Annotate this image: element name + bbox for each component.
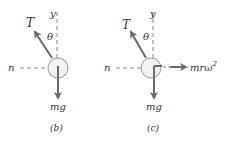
weight-label: mg (50, 101, 66, 112)
angle-label: θ (47, 31, 53, 42)
particle-circle (141, 58, 161, 78)
panel-c: T θ y n mrω2 mg (c) (104, 8, 217, 133)
panel-b: T θ y n mg (b) (8, 8, 68, 133)
n-label: n (104, 62, 110, 73)
tension-label: T (26, 16, 35, 30)
weight-label: mg (146, 101, 162, 112)
n-label: n (8, 62, 14, 73)
angle-label: θ (143, 31, 149, 42)
caption-c: (c) (147, 123, 160, 133)
y-label: y (49, 8, 56, 19)
y-label: y (149, 8, 156, 19)
caption-b: (b) (50, 123, 63, 133)
tension-label: T (122, 18, 131, 32)
inertial-label: mrω2 (190, 60, 217, 73)
free-body-diagrams: T θ y n mg (b) T θ y n mrω2 mg (c) (0, 0, 227, 146)
